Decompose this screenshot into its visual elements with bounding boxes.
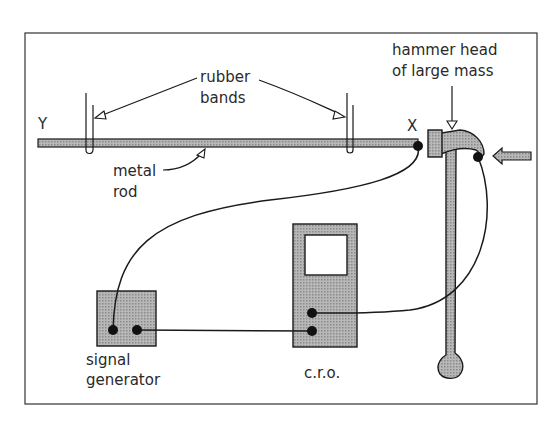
metal-rod-label-1: metal <box>113 161 156 181</box>
rubber-bands-label-1: rubber <box>200 67 250 87</box>
arrowhead-icon <box>95 111 106 119</box>
cro-label: c.r.o. <box>304 363 340 383</box>
hammer-label-1: hammer head <box>392 40 498 60</box>
hammer <box>428 130 484 378</box>
terminal-x <box>413 141 423 151</box>
terminal-cro-2 <box>307 326 317 336</box>
terminal-hammer <box>473 152 483 162</box>
metal-rod-leader <box>163 153 202 170</box>
signal-generator-label-2: generator <box>86 370 160 390</box>
terminal-generator-2 <box>132 325 142 335</box>
arrowhead-icon <box>447 121 457 129</box>
metal-rod-label-2: rod <box>113 182 138 202</box>
end-y-label: Y <box>38 114 47 134</box>
hammer-label-2: of large mass <box>392 61 493 81</box>
signal-generator <box>97 291 156 346</box>
rubber-bands-label-2: bands <box>200 88 246 108</box>
terminal-cro-1 <box>307 308 317 318</box>
cro-screen <box>305 235 347 275</box>
end-x-label: X <box>407 116 417 136</box>
arrowhead-icon <box>333 111 345 119</box>
wire-x-to-generator <box>113 146 419 330</box>
signal-generator-label-1: signal <box>86 350 130 370</box>
wire-generator-to-cro <box>137 330 312 331</box>
metal-rod <box>38 139 418 147</box>
terminal-generator-1 <box>108 325 118 335</box>
push-arrow-icon <box>493 148 531 164</box>
